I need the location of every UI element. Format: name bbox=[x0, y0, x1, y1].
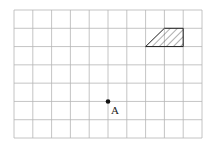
hatched-trapezoid bbox=[146, 28, 184, 46]
grid-diagram: A bbox=[0, 0, 212, 146]
point-a bbox=[106, 99, 111, 104]
point-a-label: A bbox=[111, 104, 119, 116]
